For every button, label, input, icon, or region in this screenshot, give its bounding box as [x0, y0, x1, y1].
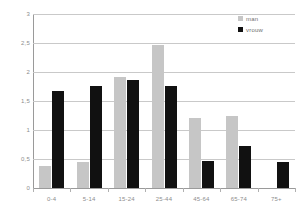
bar-man-15-24	[114, 77, 126, 188]
gridline	[33, 188, 295, 189]
plot-area	[33, 14, 295, 188]
x-category-label: 65-74	[231, 196, 247, 202]
legend-label-man: man	[246, 16, 258, 22]
bar-man-5-14	[77, 162, 89, 188]
legend-swatch-man-icon	[238, 16, 243, 21]
legend-item-man: man	[238, 14, 298, 23]
y-tick-label: 0,5	[4, 156, 30, 162]
bar-vrouw-45-64	[202, 161, 214, 188]
bar-man-0-4	[39, 166, 51, 188]
y-tick-label: 3	[4, 11, 30, 17]
bar-vrouw-75+	[277, 162, 289, 188]
x-tick-mark	[33, 188, 34, 192]
y-tick-label: 0	[4, 185, 30, 191]
x-category-label: 45-64	[193, 196, 209, 202]
bar-vrouw-0-4	[52, 91, 64, 188]
x-tick-mark	[183, 188, 184, 192]
x-tick-mark	[258, 188, 259, 192]
x-tick-mark	[220, 188, 221, 192]
x-tick-mark	[70, 188, 71, 192]
x-tick-mark	[295, 188, 296, 192]
y-tick-label: 2	[4, 69, 30, 75]
bar-chart: 00,511,522,53 0-45-1415-2425-4445-6465-7…	[0, 0, 304, 219]
bar-man-25-44	[152, 45, 164, 188]
x-tick-mark	[145, 188, 146, 192]
y-tick-label: 2,5	[4, 40, 30, 46]
x-category-label: 0-4	[47, 196, 56, 202]
legend-item-vrouw: vrouw	[238, 25, 298, 34]
gridline	[33, 72, 295, 73]
bar-man-65-74	[226, 116, 238, 189]
bar-vrouw-25-44	[165, 86, 177, 188]
x-tick-mark	[108, 188, 109, 192]
gridline	[33, 43, 295, 44]
legend-label-vrouw: vrouw	[246, 27, 263, 33]
bar-man-45-64	[189, 118, 201, 188]
legend-swatch-vrouw-icon	[238, 27, 243, 32]
bar-vrouw-5-14	[90, 86, 102, 188]
x-category-label: 75+	[271, 196, 282, 202]
x-category-label: 25-44	[156, 196, 172, 202]
chart-legend: man vrouw	[238, 14, 298, 36]
x-category-label: 15-24	[118, 196, 134, 202]
y-tick-label: 1,5	[4, 98, 30, 104]
bar-vrouw-15-24	[127, 80, 139, 188]
x-axis-labels: 0-45-1415-2425-4445-6465-7475+	[33, 196, 295, 210]
y-axis-labels: 00,511,522,53	[0, 14, 30, 188]
bar-vrouw-65-74	[239, 146, 251, 188]
y-tick-label: 1	[4, 127, 30, 133]
x-category-label: 5-14	[83, 196, 96, 202]
